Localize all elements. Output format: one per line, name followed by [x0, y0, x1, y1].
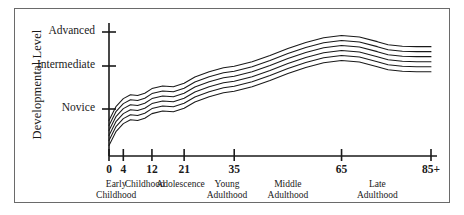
x-tick-label-65: 65 — [322, 163, 362, 175]
x-tick-label-35: 35 — [214, 163, 254, 175]
life-stage-line: Adulthood — [357, 190, 398, 200]
life-stage-6: LateAdulthood — [342, 179, 412, 200]
y-tick-label-advanced: Advanced — [48, 24, 95, 36]
life-stage-line: Young — [215, 179, 240, 189]
x-tick-label-85plus: 85+ — [411, 163, 451, 175]
y-tick-label-intermediate: Intermediate — [37, 58, 95, 70]
band-line-1 — [109, 60, 431, 145]
chart-axes — [102, 23, 437, 161]
life-stage-4: YoungAdulthood — [192, 179, 262, 200]
y-tick-label-novice: Novice — [62, 101, 95, 113]
life-stage-line: Adulthood — [268, 190, 309, 200]
life-stage-line: Adulthood — [207, 190, 248, 200]
developmental-band-lines — [109, 35, 431, 145]
figure-frame: Developmental Level NoviceIntermediateAd… — [14, 8, 450, 203]
life-stage-line: Middle — [274, 179, 301, 189]
life-stage-line: Late — [369, 179, 386, 189]
x-tick-label-21: 21 — [164, 163, 204, 175]
life-stage-line: Childhood — [96, 190, 136, 200]
life-stage-5: MiddleAdulthood — [253, 179, 323, 200]
figure-container: Developmental Level NoviceIntermediateAd… — [0, 0, 464, 215]
